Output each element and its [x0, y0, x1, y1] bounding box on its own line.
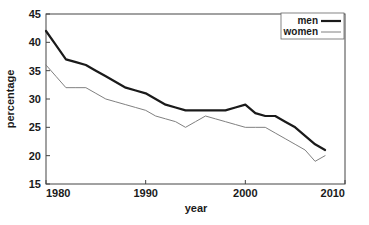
- y-tick-label: 20: [29, 150, 41, 162]
- line-chart: 1980199020002010 15202530354045 year per…: [0, 0, 369, 225]
- x-tick-label: 2010: [321, 187, 345, 199]
- y-tick-label: 40: [29, 36, 41, 48]
- y-tick-label: 25: [29, 121, 41, 133]
- x-tick-label: 2000: [233, 187, 257, 199]
- chart-figure: 1980199020002010 15202530354045 year per…: [0, 0, 369, 225]
- x-axis-title: year: [185, 202, 208, 214]
- chart-legend: men women: [281, 13, 344, 39]
- legend-item-men-label: men: [297, 15, 318, 26]
- legend-item-women-label: women: [283, 26, 318, 37]
- y-axis-title: percentage: [4, 70, 16, 129]
- y-tick-label: 15: [29, 178, 41, 190]
- y-tick-label: 30: [29, 93, 41, 105]
- x-tick-label: 1990: [133, 187, 157, 199]
- x-tick-label: 1980: [46, 187, 70, 199]
- y-tick-label: 45: [29, 8, 41, 20]
- y-tick-label: 35: [29, 65, 41, 77]
